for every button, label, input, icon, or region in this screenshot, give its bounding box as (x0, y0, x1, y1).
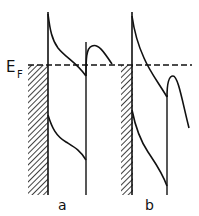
fermi-level-label: E F (6, 58, 23, 80)
barrier-bump-a (86, 45, 112, 76)
panel-a: a (28, 12, 112, 213)
panel-label-a: a (58, 197, 67, 213)
conduction-band-a (48, 14, 86, 76)
metal-hatch-a (28, 65, 48, 195)
fermi-label-e: E (6, 58, 15, 76)
valence-band-b (132, 110, 167, 186)
panel-b: b (121, 12, 189, 213)
band-diagram: E F a b (0, 0, 199, 216)
barrier-bump-b (167, 76, 189, 128)
valence-band-a (48, 115, 86, 160)
panel-label-b: b (145, 197, 154, 213)
fermi-label-sub: F (17, 69, 23, 80)
conduction-band-b (132, 16, 167, 97)
